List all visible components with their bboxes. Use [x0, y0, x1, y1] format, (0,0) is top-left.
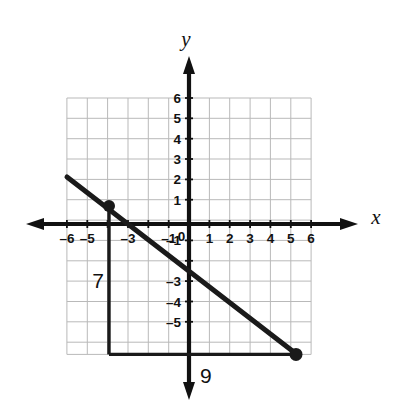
- x-tick-label: 5: [287, 231, 295, 246]
- x-tick-label: 3: [246, 231, 254, 246]
- y-tick-label: –1: [166, 233, 182, 248]
- y-axis: [183, 56, 195, 400]
- marked-point-start: [103, 200, 115, 212]
- x-tick-label: –3: [120, 231, 136, 246]
- x-axis-label: x: [370, 205, 381, 229]
- rise-label: 7: [92, 269, 104, 292]
- x-axis-right-arrow: [340, 218, 358, 230]
- y-tick-label: –5: [166, 315, 182, 330]
- coordinate-plane-figure: –6 –5 –3 –1 0 1 2 3 4 5 6 6 5 4 3 2 1 –1…: [0, 0, 403, 418]
- y-axis-top-arrow: [183, 56, 195, 74]
- x-axis-left-arrow: [26, 218, 44, 230]
- y-axis-label: y: [179, 27, 191, 51]
- y-tick-label: –4: [166, 295, 182, 310]
- y-tick-label: 4: [173, 132, 181, 147]
- run-label: 9: [200, 364, 212, 387]
- y-tick-label: 1: [173, 193, 181, 208]
- x-tick-label: 1: [206, 231, 214, 246]
- y-tick-label: 3: [173, 152, 181, 167]
- axes: [26, 56, 358, 400]
- y-tick-label: –3: [166, 274, 182, 289]
- x-tick-label: –6: [59, 231, 75, 246]
- y-tick-label: 2: [173, 172, 181, 187]
- y-axis-bottom-arrow: [183, 382, 195, 400]
- x-tick-label: 6: [307, 231, 315, 246]
- x-tick-label: –5: [80, 231, 96, 246]
- graph-svg: –6 –5 –3 –1 0 1 2 3 4 5 6 6 5 4 3 2 1 –1…: [0, 0, 403, 418]
- marked-point-end: [290, 348, 303, 361]
- x-tick-label: 4: [267, 231, 275, 246]
- y-tick-label: 5: [173, 111, 181, 126]
- x-tick-label: 2: [226, 231, 234, 246]
- y-tick-label: 6: [173, 91, 181, 106]
